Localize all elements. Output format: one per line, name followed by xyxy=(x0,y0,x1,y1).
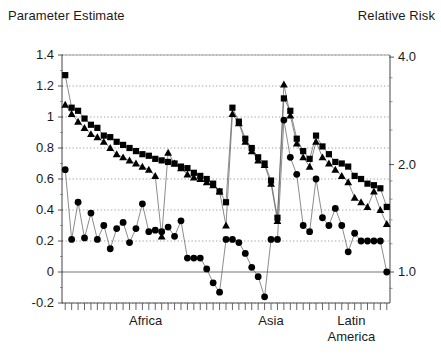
left-axis-tick-label: 1 xyxy=(0,109,54,124)
left-axis-tick-label: 0.8 xyxy=(0,140,54,155)
left-axis-tick-label: 1.2 xyxy=(0,78,54,93)
left-axis-tick-label: 0.6 xyxy=(0,171,54,186)
right-axis-tick-label: 4.0 xyxy=(398,49,416,64)
chart-figure: Parameter Estimate Relative Risk 1.41.21… xyxy=(0,0,441,364)
right-axis-tick-label: 2.0 xyxy=(398,157,416,172)
x-axis-group-label: LatinAmerica xyxy=(291,313,411,345)
plot-canvas xyxy=(0,0,441,364)
left-axis-tick-label: -0.2 xyxy=(0,295,54,310)
left-axis-tick-label: 0.4 xyxy=(0,202,54,217)
x-axis-group-label: Africa xyxy=(86,313,206,329)
left-axis-tick-label: 0.2 xyxy=(0,233,54,248)
right-axis-tick-label: 1.0 xyxy=(398,264,416,279)
left-axis-tick-label: 0 xyxy=(0,264,54,279)
left-axis-tick-label: 1.4 xyxy=(0,47,54,62)
